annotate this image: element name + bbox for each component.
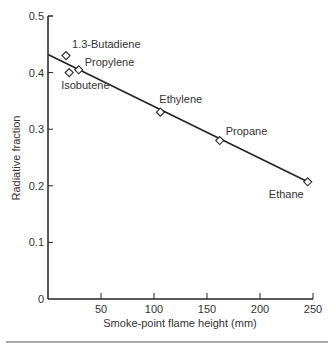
point-label: Ethane — [269, 188, 304, 200]
fit-line — [48, 54, 308, 181]
point-label: Propane — [226, 125, 268, 137]
data-point-diamond — [156, 108, 164, 116]
chart-canvas: 00.10.20.30.40.5 50100150200250 1.3-Buta… — [0, 0, 332, 347]
x-axis-title: Smoke-point flame height (mm) — [103, 317, 256, 329]
point-label: 1.3-Butadiene — [72, 38, 140, 50]
y-tick-label: 0.5 — [29, 10, 44, 22]
y-ticks: 00.10.20.30.40.5 — [29, 10, 53, 305]
data-point-diamond — [75, 66, 83, 74]
data-points: 1.3-ButadieneIsobutenePropyleneEthyleneP… — [61, 38, 312, 200]
y-tick-label: 0.4 — [29, 67, 44, 79]
point-label: Ethylene — [159, 93, 202, 105]
point-label: Propylene — [85, 56, 135, 68]
x-tick-label: 250 — [304, 303, 322, 315]
data-point-diamond — [65, 69, 73, 77]
x-ticks: 50100150200250 — [95, 293, 322, 315]
x-tick-label: 50 — [95, 303, 107, 315]
y-axis-title: Radiative fraction — [10, 116, 22, 201]
data-point-diamond — [304, 178, 312, 186]
y-tick-label: 0 — [38, 293, 44, 305]
y-tick-label: 0.3 — [29, 123, 44, 135]
data-point-diamond — [62, 52, 70, 60]
x-tick-label: 200 — [251, 303, 269, 315]
y-tick-label: 0.2 — [29, 180, 44, 192]
y-tick-label: 0.1 — [29, 236, 44, 248]
point-label: Isobutene — [61, 79, 109, 91]
x-tick-label: 150 — [198, 303, 216, 315]
x-tick-label: 100 — [145, 303, 163, 315]
